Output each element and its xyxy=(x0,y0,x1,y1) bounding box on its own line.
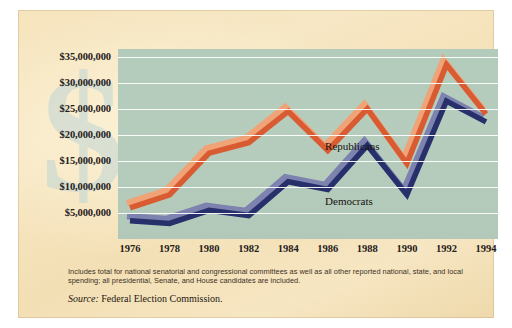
gridline xyxy=(118,187,498,188)
y-axis-tick-label: $5,000,000 xyxy=(65,207,111,218)
x-axis-tick-label: 1976 xyxy=(120,243,141,254)
gridline xyxy=(118,83,498,84)
plot-area xyxy=(118,49,498,239)
chart-figure: $ $35,000,000$30,000,000$25,000,000$20,0… xyxy=(18,10,494,318)
y-axis-tick-label: $10,000,000 xyxy=(60,181,111,192)
x-axis-tick-label: 1988 xyxy=(357,243,378,254)
chart-footnote: Includes total for national senatorial a… xyxy=(68,267,468,286)
line-series-svg xyxy=(118,49,498,239)
x-axis-tick-label: 1994 xyxy=(476,243,497,254)
y-axis-tick-label: $35,000,000 xyxy=(60,51,111,62)
x-axis-tick-label: 1980 xyxy=(199,243,220,254)
y-axis-tick-label: $15,000,000 xyxy=(60,155,111,166)
x-axis-tick-labels: 1976197819801982198419861988199019921994 xyxy=(118,243,498,259)
y-axis-tick-label: $25,000,000 xyxy=(60,103,111,114)
x-axis-tick-label: 1990 xyxy=(396,243,417,254)
gridline xyxy=(118,109,498,110)
series-highlight-democrats xyxy=(127,97,483,219)
gridline xyxy=(118,161,498,162)
x-axis-tick-label: 1992 xyxy=(436,243,457,254)
footnote-line-1: Includes total for national senatorial a… xyxy=(68,267,411,276)
chart-source: Source: Federal Election Commission. xyxy=(68,293,223,304)
x-axis-tick-label: 1978 xyxy=(159,243,180,254)
series-annotation-democrats: Democrats xyxy=(325,195,373,207)
x-axis-tick-label: 1984 xyxy=(278,243,299,254)
x-axis-tick-label: 1982 xyxy=(238,243,259,254)
x-axis-tick-label: 1986 xyxy=(317,243,338,254)
gridline xyxy=(118,213,498,214)
source-text: Federal Election Commission. xyxy=(99,293,223,304)
y-axis-tick-label: $20,000,000 xyxy=(60,129,111,140)
gridline xyxy=(118,57,498,58)
gridline xyxy=(118,135,498,136)
series-annotation-republicans: Republicans xyxy=(325,140,379,152)
source-label: Source: xyxy=(68,293,99,304)
y-axis-tick-labels: $35,000,000$30,000,000$25,000,000$20,000… xyxy=(18,10,111,260)
y-axis-tick-label: $30,000,000 xyxy=(60,77,111,88)
